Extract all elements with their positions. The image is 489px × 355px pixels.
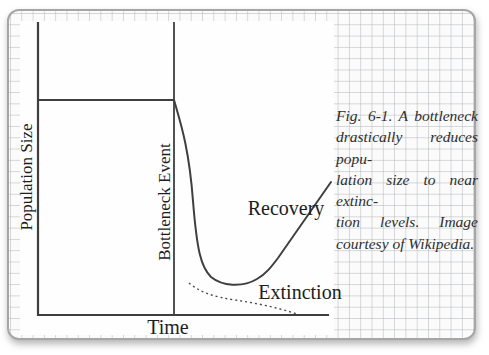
y-axis-label: Population Size: [17, 123, 37, 230]
figure-caption: Fig. 6-1. A bottleneck drastically reduc…: [336, 105, 478, 254]
caption-line: drastically reduces popu-: [336, 126, 478, 169]
extinction-label: Extinction: [258, 281, 341, 304]
population-curve: [174, 100, 331, 285]
recovery-label: Recovery: [248, 197, 325, 220]
caption-line: courtesy of Wikipedia.: [336, 233, 478, 254]
scanned-figure-page: Population Size Bottleneck Event Time Re…: [0, 0, 489, 355]
caption-line: lation size to near extinc-: [336, 169, 478, 212]
bottleneck-event-label: Bottleneck Event: [155, 143, 175, 261]
caption-line: Fig. 6-1. A bottleneck: [336, 105, 478, 126]
caption-line: tion levels. Image: [336, 211, 478, 232]
x-axis-label: Time: [147, 316, 189, 339]
